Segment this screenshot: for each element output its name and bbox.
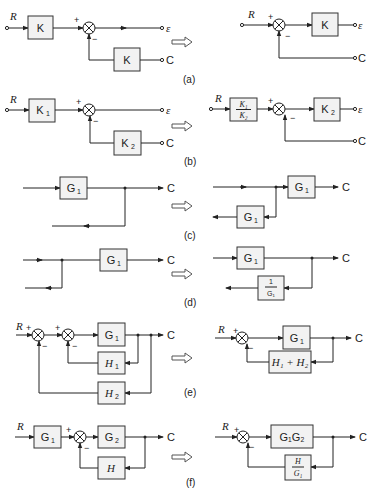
svg-text:−: −: [290, 113, 295, 123]
svg-text:H: H: [104, 357, 114, 369]
svg-text:2: 2: [131, 143, 135, 150]
svg-text:1: 1: [46, 110, 50, 117]
svg-text:R: R: [217, 323, 225, 335]
svg-text:R: R: [16, 420, 24, 432]
svg-text:ε: ε: [358, 19, 363, 31]
panel-b-original: R K 1 + − ε K 2 C: [5, 93, 174, 155]
svg-text:+: +: [66, 425, 71, 435]
svg-text:1: 1: [254, 217, 258, 224]
svg-text:−: −: [84, 443, 89, 453]
panel-f: R G 1 + − G 2 C H: [15, 420, 367, 488]
svg-text:K₁: K₁: [238, 100, 247, 109]
panel-d-equivalent: G 1 C 1 G₁: [213, 247, 350, 300]
input-terminal: [5, 26, 8, 29]
panel-caption: (b): [184, 156, 196, 167]
panel-c-equivalent: G 1 C G 1: [213, 176, 350, 228]
output-label: C: [166, 54, 174, 66]
svg-text:1: 1: [115, 335, 119, 342]
svg-text:K₂: K₂: [238, 111, 247, 120]
svg-text:2: 2: [115, 393, 119, 400]
panel-c: G 1 C (c) G 1 C G 1: [23, 176, 350, 241]
svg-text:1: 1: [305, 187, 309, 194]
svg-text:1: 1: [254, 258, 258, 265]
svg-text:−: −: [248, 343, 253, 353]
svg-text:K: K: [321, 103, 329, 115]
svg-text:−: −: [72, 341, 77, 351]
transform-arrow-icon: [172, 269, 192, 279]
svg-text:C: C: [166, 137, 174, 149]
summing-junction: [236, 332, 248, 344]
summing-junction: [83, 22, 95, 34]
svg-text:C: C: [342, 252, 350, 264]
svg-text:1: 1: [117, 260, 121, 267]
summing-junction: [273, 19, 285, 31]
panel-b: R K 1 + − ε K 2 C (b): [5, 92, 366, 167]
summing-junction: [273, 103, 285, 115]
svg-text:K: K: [121, 137, 129, 149]
svg-text:C: C: [358, 52, 366, 64]
svg-text:K: K: [321, 19, 329, 31]
svg-text:K: K: [123, 54, 131, 66]
summing-junction: [74, 431, 86, 443]
svg-text:2: 2: [115, 437, 119, 444]
transform-arrow-icon: [172, 452, 192, 462]
svg-text:C: C: [167, 329, 175, 341]
svg-text:C: C: [359, 431, 367, 443]
panel-c-original: G 1 C: [23, 177, 175, 226]
panel-b-equivalent: R K₁ K₂ + − K 2 ε C: [209, 92, 366, 147]
svg-text:G: G: [105, 431, 114, 443]
svg-text:G₁: G₁: [267, 290, 275, 297]
svg-text:R: R: [247, 8, 255, 20]
svg-text:H: H: [104, 387, 114, 399]
block-diagram-reduction-figure: R K + − ε K C (a): [0, 0, 381, 489]
panel-a: R K + − ε K C (a): [5, 8, 366, 85]
svg-text:G: G: [244, 211, 253, 223]
svg-text:ε: ε: [166, 104, 171, 116]
svg-text:C: C: [355, 332, 363, 344]
panel-f-equivalent: R + − G₁G₂ C H G₁: [215, 420, 367, 480]
panel-d-original: G 1 C: [23, 249, 175, 288]
svg-text:R: R: [214, 92, 222, 104]
svg-text:K: K: [36, 104, 44, 116]
panel-caption: (f): [186, 477, 195, 488]
svg-text:G₁: G₁: [294, 469, 303, 478]
svg-text:1: 1: [269, 278, 273, 285]
svg-text:+: +: [74, 15, 79, 25]
summing-junction: [83, 104, 95, 116]
panel-caption: (c): [184, 230, 196, 241]
panel-caption: (e): [184, 387, 196, 398]
svg-text:R: R: [221, 420, 229, 432]
panel-caption: (d): [184, 297, 196, 308]
svg-text:G: G: [67, 182, 76, 194]
svg-text:G: G: [41, 431, 50, 443]
panel-f-original: R G 1 + − G 2 C H: [15, 420, 175, 479]
input-label: R: [9, 10, 17, 22]
svg-text:−: −: [92, 34, 97, 44]
error-output-label: ε: [166, 22, 171, 34]
svg-text:C: C: [342, 181, 350, 193]
panel-a-equivalent: R + − K ε C: [240, 8, 366, 64]
svg-text:1: 1: [51, 437, 55, 444]
svg-text:H₁ + H₂: H₁ + H₂: [271, 356, 309, 368]
svg-text:G: G: [244, 252, 253, 264]
svg-text:H: H: [106, 462, 116, 474]
svg-text:G: G: [107, 254, 116, 266]
summing-junction-outer: [32, 329, 44, 341]
svg-text:+: +: [76, 97, 81, 107]
svg-text:G: G: [105, 329, 114, 341]
svg-text:G: G: [295, 181, 304, 193]
svg-text:+: +: [55, 323, 60, 333]
transform-arrow-icon: [172, 121, 192, 131]
panel-a-original: R K + − ε K C: [5, 10, 174, 71]
summing-junction: [237, 431, 249, 443]
transform-arrow-icon: [172, 37, 192, 47]
transform-arrow-icon: [172, 201, 192, 211]
panel-e-original: R + − + − G 1 C: [15, 320, 175, 404]
svg-text:R: R: [15, 320, 23, 332]
svg-text:C: C: [358, 135, 366, 147]
block-label: K: [37, 22, 45, 34]
svg-text:R: R: [9, 93, 17, 105]
svg-text:+: +: [268, 96, 273, 106]
svg-text:1: 1: [77, 188, 81, 195]
svg-text:C: C: [167, 254, 175, 266]
